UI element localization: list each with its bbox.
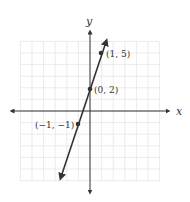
coordinate-plane: x y (1, 5) (0, 2) (−1, −1)	[0, 0, 190, 202]
point-0-2	[88, 87, 93, 92]
point-1-5	[99, 51, 104, 56]
x-axis-label: x	[176, 105, 183, 118]
y-axis-label: y	[85, 15, 93, 28]
line-y-3x-plus-2	[61, 42, 106, 177]
point-label-0-2: (0, 2)	[94, 85, 118, 95]
point-neg1-neg1	[76, 122, 81, 127]
point-label-neg1-neg1: (−1, −1)	[35, 120, 74, 130]
point-label-1-5: (1, 5)	[106, 49, 130, 59]
